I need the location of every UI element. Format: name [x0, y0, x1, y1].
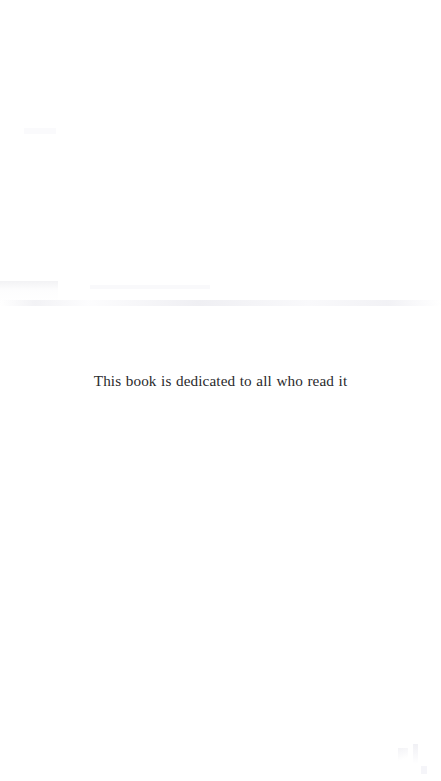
dedication-text: This book is dedicated to all who read i… — [94, 371, 348, 391]
scan-artifact-line-upper — [90, 285, 210, 289]
scan-artifact-corner-b — [413, 744, 418, 764]
dedication-page: This book is dedicated to all who read i… — [0, 0, 441, 781]
scan-artifact-left-edge — [0, 281, 58, 303]
scan-artifact-top-left — [24, 128, 56, 134]
scan-artifact-corner-c — [421, 766, 427, 774]
scan-artifact-corner-a — [398, 748, 408, 762]
scan-artifact-line — [0, 300, 441, 306]
dedication-block: This book is dedicated to all who read i… — [0, 371, 441, 391]
